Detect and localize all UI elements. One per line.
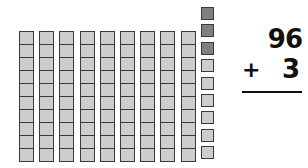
bottom-addend: 3 (282, 56, 300, 82)
rod-cell (101, 84, 114, 97)
rod-cell (20, 110, 33, 123)
rod-cell (60, 32, 73, 45)
rod-cell (20, 149, 33, 161)
rod-cell (182, 149, 195, 161)
rod-cell (182, 58, 195, 71)
ten-rod (19, 31, 34, 162)
rod-cell (121, 45, 134, 58)
rod-cell (81, 136, 94, 149)
rod-cell (141, 45, 154, 58)
rod-cell (121, 32, 134, 45)
unit-cube (201, 111, 214, 124)
rod-cell (60, 149, 73, 161)
sum-line (242, 91, 302, 93)
plus-sign: + (242, 57, 260, 83)
rod-cell (60, 110, 73, 123)
rod-cell (161, 97, 174, 110)
unit-cube (201, 42, 214, 55)
unit-cube (201, 59, 214, 72)
rod-cell (40, 149, 53, 161)
unit-cube (201, 129, 214, 142)
rod-cell (182, 136, 195, 149)
rod-cell (40, 58, 53, 71)
rod-cell (141, 123, 154, 136)
rod-cell (60, 71, 73, 84)
ten-rod (181, 31, 196, 162)
rod-cell (141, 110, 154, 123)
unit-cube (201, 7, 214, 20)
rod-cell (182, 45, 195, 58)
rod-cell (20, 58, 33, 71)
rod-cell (182, 110, 195, 123)
unit-cube (201, 24, 214, 37)
rod-cell (182, 123, 195, 136)
rod-cell (141, 149, 154, 161)
rod-cell (40, 123, 53, 136)
rod-cell (101, 45, 114, 58)
rod-cell (60, 97, 73, 110)
ten-rod (39, 31, 54, 162)
rod-cell (141, 71, 154, 84)
rod-cell (161, 45, 174, 58)
rod-cell (161, 136, 174, 149)
rod-cell (101, 32, 114, 45)
rod-cell (40, 71, 53, 84)
rod-cell (81, 84, 94, 97)
rod-cell (121, 58, 134, 71)
rod-cell (101, 58, 114, 71)
rod-cell (121, 149, 134, 161)
rod-cell (40, 136, 53, 149)
rod-cell (182, 84, 195, 97)
rod-cell (20, 84, 33, 97)
rod-cell (161, 58, 174, 71)
rod-cell (60, 58, 73, 71)
rod-cell (40, 45, 53, 58)
rod-cell (182, 97, 195, 110)
rod-cell (81, 149, 94, 161)
rod-cell (40, 84, 53, 97)
rod-cell (161, 149, 174, 161)
rod-cell (121, 136, 134, 149)
rod-cell (161, 110, 174, 123)
rod-cell (141, 136, 154, 149)
rod-cell (101, 71, 114, 84)
rod-cell (40, 32, 53, 45)
unit-cube (201, 146, 214, 159)
rod-cell (81, 32, 94, 45)
rod-cell (40, 97, 53, 110)
rod-cell (81, 110, 94, 123)
rod-cell (141, 32, 154, 45)
rod-cell (60, 123, 73, 136)
ten-rod (100, 31, 115, 162)
rod-cell (141, 84, 154, 97)
rod-cell (182, 32, 195, 45)
rod-cell (141, 97, 154, 110)
rod-cell (101, 123, 114, 136)
rod-cell (101, 97, 114, 110)
unit-cube (201, 77, 214, 90)
rod-cell (161, 123, 174, 136)
rod-cell (60, 84, 73, 97)
rod-cell (81, 71, 94, 84)
rod-cell (20, 71, 33, 84)
rod-cell (101, 136, 114, 149)
ten-rod (140, 31, 155, 162)
rod-cell (20, 123, 33, 136)
rod-cell (121, 123, 134, 136)
rod-cell (182, 71, 195, 84)
rod-cell (101, 110, 114, 123)
rod-cell (40, 110, 53, 123)
rod-cell (161, 84, 174, 97)
rod-cell (81, 45, 94, 58)
ten-rod (120, 31, 135, 162)
rod-cell (161, 71, 174, 84)
ten-rod (160, 31, 175, 162)
rod-cell (20, 97, 33, 110)
rod-cell (81, 97, 94, 110)
rod-cell (141, 58, 154, 71)
ten-rod (59, 31, 74, 162)
rod-cell (60, 45, 73, 58)
rod-cell (101, 149, 114, 161)
ten-rod (80, 31, 95, 162)
rod-cell (81, 58, 94, 71)
